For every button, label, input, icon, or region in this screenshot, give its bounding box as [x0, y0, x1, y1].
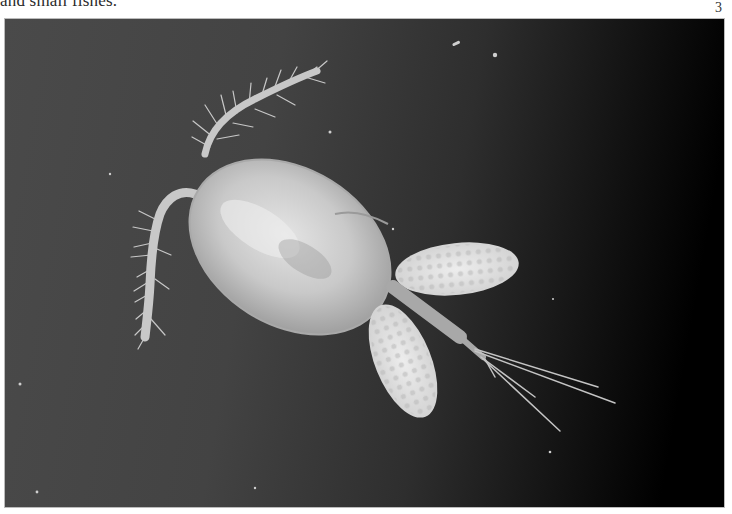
egg-sac-upper [393, 237, 522, 302]
antenna-upper [192, 61, 327, 154]
page-number: 3 [715, 0, 722, 16]
copepod-photo [5, 19, 724, 507]
caption-fragment: and small fishes. [0, 0, 117, 11]
antenna-lower [131, 191, 195, 349]
copepod-illustration [5, 19, 724, 507]
